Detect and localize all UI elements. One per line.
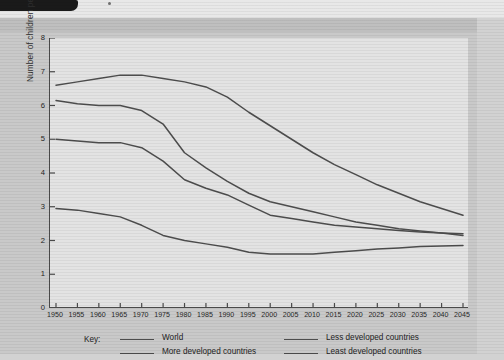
legend-key-label: Key: — [84, 335, 100, 344]
panel-sheen — [0, 18, 477, 32]
series-line-less-developed-countries — [56, 100, 463, 235]
chart-legend: Key: WorldMore developed countriesLess d… — [0, 332, 477, 360]
legend-swatch-line-icon — [120, 339, 154, 340]
legend-swatch-line-icon — [120, 353, 154, 354]
chart-lines-svg — [50, 38, 469, 308]
legend-item-label: Less developed countries — [326, 333, 419, 342]
clipped-black-tab — [0, 0, 78, 11]
y-tick-1: 1 — [19, 269, 45, 278]
y-axis-title: Number of children per woman — [26, 0, 35, 82]
legend-swatch-line-icon — [284, 353, 318, 354]
y-tick-3: 3 — [19, 202, 45, 211]
series-line-world — [56, 139, 463, 234]
legend-item-label: More developed countries — [162, 347, 256, 356]
y-tick-2: 2 — [19, 236, 45, 245]
y-tick-6: 6 — [19, 101, 45, 110]
series-line-least-developed-countries — [56, 75, 463, 215]
legend-swatch-line-icon — [284, 339, 318, 340]
legend-item-label: World — [162, 333, 183, 342]
y-tick-5: 5 — [19, 134, 45, 143]
clipped-dot-mark — [108, 2, 111, 5]
x-tick-2045: 2045 — [447, 311, 477, 319]
legend-item-label: Least developed countries — [326, 347, 422, 356]
chart-panel: 012345678 Number of children per woman 1… — [0, 18, 477, 354]
page-top-strip — [0, 0, 504, 18]
x-axis-tick-labels: 1950195519601965197019751980198519901995… — [49, 311, 468, 325]
plot-area: Number of children per woman — [49, 38, 468, 308]
y-tick-4: 4 — [19, 168, 45, 177]
